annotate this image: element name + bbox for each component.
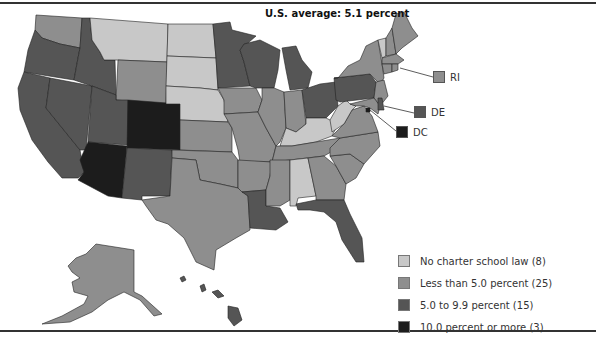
map-title: U.S. average: 5.1 percent bbox=[265, 8, 409, 19]
legend-item-under-5: Less than 5.0 percent (25) bbox=[398, 272, 552, 294]
state-HI bbox=[180, 276, 186, 282]
state-NM bbox=[122, 148, 172, 200]
callout-dc: DC bbox=[396, 126, 428, 138]
legend-label-10-plus: 10.0 percent or more (3) bbox=[420, 322, 544, 333]
state-AK bbox=[42, 244, 162, 324]
state-HI-2 bbox=[200, 284, 206, 292]
state-MI bbox=[282, 46, 312, 90]
callout-dc-swatch bbox=[396, 126, 408, 138]
legend-swatch-no-law bbox=[398, 255, 410, 267]
callout-ri-label: RI bbox=[450, 72, 460, 83]
legend-item-no-law: No charter school law (8) bbox=[398, 250, 552, 272]
state-IA bbox=[218, 88, 262, 114]
state-ND bbox=[167, 24, 216, 58]
state-HI-3 bbox=[212, 290, 224, 298]
de-leader-line bbox=[384, 106, 414, 113]
state-WY bbox=[116, 60, 167, 104]
state-HI-4 bbox=[228, 306, 242, 326]
state-PA bbox=[334, 74, 376, 102]
legend-swatch-under-5 bbox=[398, 277, 410, 289]
state-CO bbox=[127, 100, 180, 150]
legend-label-5-to-9: 5.0 to 9.9 percent (15) bbox=[420, 300, 533, 311]
legend-label-under-5: Less than 5.0 percent (25) bbox=[420, 278, 552, 289]
ri-leader-line bbox=[400, 68, 433, 77]
state-MT bbox=[90, 18, 168, 62]
state-AZ bbox=[78, 142, 127, 198]
callout-de-swatch bbox=[414, 106, 426, 118]
state-DC bbox=[366, 108, 370, 112]
state-SD bbox=[166, 56, 218, 90]
legend-label-no-law: No charter school law (8) bbox=[420, 256, 546, 267]
state-FL bbox=[296, 200, 364, 262]
callout-ri-swatch bbox=[433, 71, 445, 83]
state-RI bbox=[392, 64, 398, 72]
map-legend: No charter school law (8) Less than 5.0 … bbox=[398, 250, 552, 338]
callout-ri: RI bbox=[433, 71, 460, 83]
state-CT bbox=[382, 64, 392, 74]
callout-de-label: DE bbox=[431, 107, 445, 118]
legend-item-10-plus: 10.0 percent or more (3) bbox=[398, 316, 552, 338]
callout-dc-label: DC bbox=[413, 127, 428, 138]
state-KS bbox=[180, 120, 232, 152]
legend-swatch-10-plus bbox=[398, 321, 410, 333]
callout-de: DE bbox=[414, 106, 445, 118]
legend-item-5-to-9: 5.0 to 9.9 percent (15) bbox=[398, 294, 552, 316]
legend-swatch-5-to-9 bbox=[398, 299, 410, 311]
